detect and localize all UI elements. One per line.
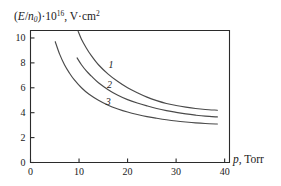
plot-frame [31,31,230,163]
y-axis-ticks [31,38,35,163]
y-tick-label: 6 [21,82,26,93]
y-axis-tick-labels: 0246810 [16,32,26,168]
y-axis-title: (E/n0)·1016, V·cm2 [14,9,100,24]
data-curve-1 [78,31,217,110]
data-curves-group [55,31,217,124]
y-tick-label: 10 [16,32,26,43]
chart-figure: 010203040 0246810 123 (E/n0)·1016, V·cm2… [0,0,281,186]
y-tick-label: 2 [21,132,26,143]
data-curve-3 [55,42,217,124]
x-axis-ticks [31,159,225,163]
x-tick-label: 40 [220,166,230,177]
x-tick-label: 0 [28,166,33,177]
y-tick-label: 0 [21,157,26,168]
curve-label-1: 1 [109,59,114,70]
x-axis-tick-labels: 010203040 [28,166,230,177]
x-tick-label: 10 [74,166,84,177]
y-tick-label: 4 [21,107,26,118]
x-axis-title: p, Torr [232,153,264,166]
y-tick-label: 8 [21,57,26,68]
x-tick-label: 20 [123,166,133,177]
chart-plot-svg: 010203040 0246810 123 (E/n0)·1016, V·cm2… [0,0,281,186]
curve-label-2: 2 [107,79,112,90]
x-tick-label: 30 [171,166,181,177]
curve-label-3: 3 [105,96,111,107]
curve-labels-group: 123 [105,59,114,106]
